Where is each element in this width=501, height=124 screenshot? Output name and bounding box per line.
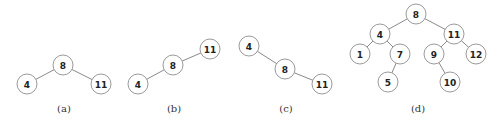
tree-node: 1 (350, 44, 370, 64)
tree-node: 11 (312, 74, 332, 94)
node-label: 4 (24, 80, 30, 90)
node-label: 8 (282, 65, 288, 75)
tree-node: 8 (275, 59, 295, 79)
tree-node: 7 (390, 44, 410, 64)
tree-node: 9 (424, 44, 444, 64)
node-label: 8 (413, 10, 419, 20)
tree-node: 10 (440, 72, 460, 92)
node-label: 4 (135, 80, 141, 90)
tree-node: 11 (91, 74, 111, 94)
node-label: 7 (397, 50, 403, 60)
node-label: 1 (357, 50, 363, 60)
captions-layer: (a)(b)(c)(d) (57, 103, 425, 114)
tree-node: 5 (378, 72, 398, 92)
tree-node: 11 (444, 24, 464, 44)
node-label: 4 (246, 42, 252, 52)
node-label: 8 (170, 61, 176, 71)
tree-node: 4 (128, 74, 148, 94)
binary-tree-diagram: 841111844811841117912510 (a)(b)(c)(d) (0, 0, 501, 124)
subfigure-caption: (b) (167, 103, 181, 114)
subfigure-caption: (d) (411, 103, 425, 114)
node-label: 5 (385, 78, 391, 88)
tree-node: 4 (239, 36, 259, 56)
node-label: 10 (444, 78, 457, 88)
node-label: 4 (377, 30, 383, 40)
node-label: 11 (204, 45, 217, 55)
tree-node: 4 (17, 74, 37, 94)
node-label: 8 (60, 61, 66, 71)
tree-node: 12 (466, 44, 486, 64)
tree-node: 8 (163, 55, 183, 75)
subfigure-caption: (c) (279, 103, 293, 114)
tree-node: 8 (53, 55, 73, 75)
node-label: 12 (470, 50, 483, 60)
tree-node: 8 (406, 4, 426, 24)
nodes-layer: 841111844811841117912510 (17, 4, 486, 94)
tree-node: 4 (370, 24, 390, 44)
node-label: 11 (316, 80, 329, 90)
subfigure-caption: (a) (57, 103, 71, 114)
node-label: 11 (95, 80, 108, 90)
tree-node: 11 (200, 39, 220, 59)
node-label: 11 (448, 30, 461, 40)
node-label: 9 (431, 50, 437, 60)
